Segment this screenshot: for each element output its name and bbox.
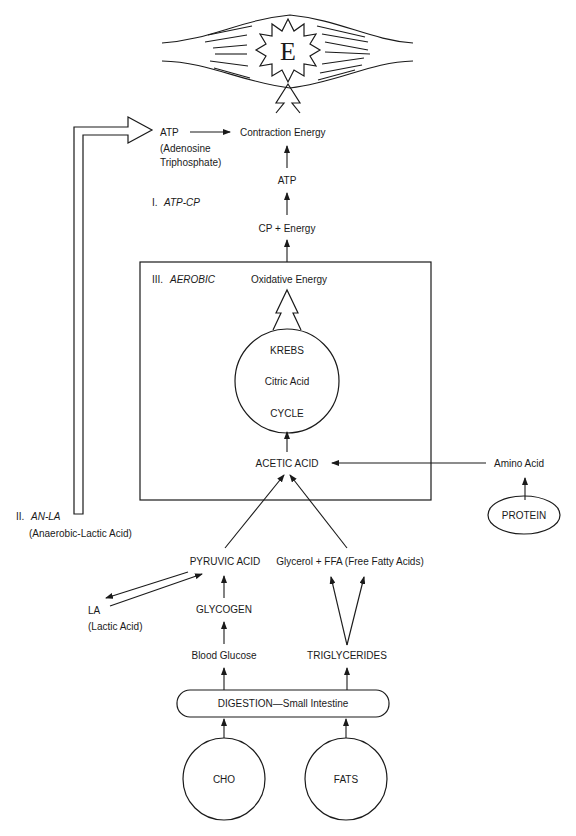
cycle-label: CYCLE xyxy=(270,408,304,419)
amino-acid-label: Amino Acid xyxy=(494,458,544,469)
atp-fullname-line1: (Adenosine xyxy=(160,143,211,154)
svg-text:II.: II. xyxy=(16,511,24,522)
atp-fullname-line2: Triphosphate) xyxy=(160,157,221,168)
cho-label: CHO xyxy=(213,774,235,785)
oxidative-energy-label: Oxidative Energy xyxy=(251,274,327,285)
svg-text:III.: III. xyxy=(152,274,163,285)
glycerol-ffa-label: Glycerol + FFA (Free Fatty Acids) xyxy=(276,556,424,567)
svg-text:ATP-CP: ATP-CP xyxy=(163,197,200,208)
triglycerides-to-glycerol-arrow-left xyxy=(331,577,347,645)
contraction-energy-hollow-arrow xyxy=(276,84,300,113)
cp-energy-label: CP + Energy xyxy=(259,223,316,234)
atp-middle-label: ATP xyxy=(278,175,297,186)
contraction-energy-label: Contraction Energy xyxy=(240,127,326,138)
muscle-illustration: E xyxy=(162,15,413,88)
citric-acid-label: Citric Acid xyxy=(265,376,309,387)
svg-text:AEROBIC: AEROBIC xyxy=(169,274,216,285)
system-atp-cp-label: I. ATP-CP xyxy=(152,197,200,208)
muscle-fibers-left xyxy=(205,26,252,78)
triglycerides-label: TRIGLYCERIDES xyxy=(307,650,387,661)
glycogen-label: GLYCOGEN xyxy=(196,604,252,615)
pyruvic-to-la-arrow xyxy=(106,572,188,598)
glycerol-to-acetic-arrow xyxy=(290,475,347,548)
digestion-label: DIGESTION—Small Intestine xyxy=(218,698,349,709)
la-to-pyruvic-arrow xyxy=(110,574,202,606)
energy-label: E xyxy=(280,37,296,66)
pyruvic-to-acetic-arrow xyxy=(225,475,284,548)
system-aerobic-label: III. AEROBIC xyxy=(152,274,216,285)
triglycerides-to-ffa-arrow-right xyxy=(347,577,364,645)
fats-label: FATS xyxy=(334,774,359,785)
krebs-label: KREBS xyxy=(270,345,304,356)
la-fullname-label: (Lactic Acid) xyxy=(88,621,142,632)
blood-glucose-label: Blood Glucose xyxy=(191,650,256,661)
muscle-fibers-right xyxy=(317,26,370,80)
pyruvic-acid-label: PYRUVIC ACID xyxy=(190,556,261,567)
svg-text:I.: I. xyxy=(152,197,158,208)
acetic-acid-label: ACETIC ACID xyxy=(256,458,319,469)
atp-label: ATP xyxy=(160,127,179,138)
energy-pathways-diagram: E ATP (Adenosine Triphosphate) Contracti… xyxy=(0,0,576,836)
system-an-la-label: II. AN-LA (Anaerobic-Lactic Acid) xyxy=(16,511,132,539)
protein-label: PROTEIN xyxy=(502,510,546,521)
la-label: LA xyxy=(88,605,101,616)
krebs-to-oxidative-hollow-arrow xyxy=(273,290,301,330)
svg-text:(Anaerobic-Lactic Acid): (Anaerobic-Lactic Acid) xyxy=(29,528,132,539)
svg-text:AN-LA: AN-LA xyxy=(30,511,61,522)
